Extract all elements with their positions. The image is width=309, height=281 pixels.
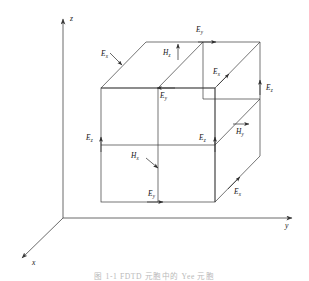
- label-right-upper-ex: Ex: [213, 68, 220, 75]
- label-mid-right-ez: Ez: [199, 134, 206, 141]
- label-center-hx: Hx: [131, 152, 139, 159]
- label-bottom-ey: Ey: [148, 190, 155, 197]
- x-axis-label: x: [32, 258, 35, 267]
- x-axis-line: [22, 218, 63, 258]
- label-far-right-ez: Ez: [266, 84, 273, 91]
- figure-caption: 图 1-1 FDTD 元胞中的 Yee 元胞: [0, 270, 309, 281]
- cube-wireframe: [101, 42, 260, 202]
- label-mid-top-ey: Ey: [160, 92, 167, 99]
- label-right-hy: Hy: [236, 128, 244, 135]
- cube-edge-mid-right-diagonal: [215, 99, 260, 145]
- arrow-center-hx: [146, 158, 158, 168]
- label-top-hz: Hz: [163, 49, 170, 56]
- coordinate-axes: [22, 19, 292, 258]
- yee-cell-diagram: [0, 0, 309, 281]
- y-axis-label: y: [285, 221, 288, 230]
- label-left-ez: Ez: [86, 134, 93, 141]
- label-top-back-ey: Ey: [196, 26, 203, 33]
- yee-cell-figure: z y x Ey Ex Hz Ey Ex Ez Ez Ez Hy Hx Ey E…: [0, 0, 309, 281]
- label-bottom-right-ex: Ex: [234, 188, 241, 195]
- label-top-left-ex: Ex: [101, 50, 108, 57]
- cube-edge-top-left-diagonal: [101, 42, 146, 88]
- arrow-top-left-ex: [110, 53, 122, 65]
- z-axis-label: z: [70, 14, 73, 23]
